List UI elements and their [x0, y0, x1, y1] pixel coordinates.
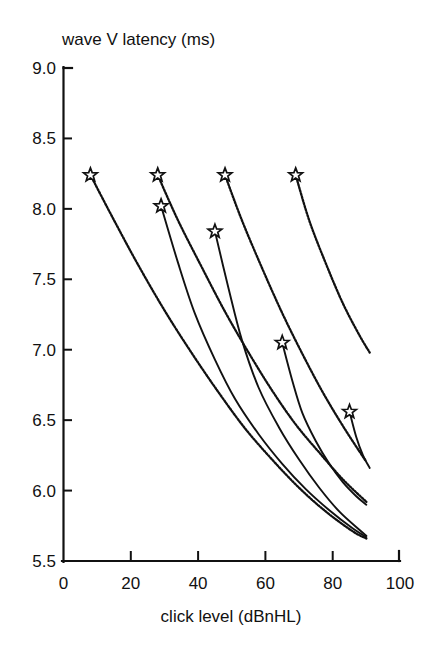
axis-frame: [62, 67, 400, 562]
y-tick-label: 7.0: [32, 341, 56, 360]
y-tick-label: 6.5: [32, 411, 56, 430]
x-tick-label: 0: [59, 574, 68, 593]
x-axis-title: click level (dBnHL): [161, 607, 302, 626]
y-tick-label: 8.0: [32, 200, 56, 219]
latency-curve: [90, 175, 366, 538]
x-tick-label: 20: [121, 574, 140, 593]
x-tick-label: 40: [189, 574, 208, 593]
threshold-star-marker: [289, 168, 303, 181]
curve-group: [90, 175, 369, 538]
threshold-star-marker: [343, 404, 357, 417]
threshold-star-marker: [151, 168, 165, 181]
threshold-star-marker: [218, 168, 232, 181]
y-axis-title: wave V latency (ms): [61, 30, 215, 49]
threshold-star-marker: [208, 224, 222, 237]
threshold-star-marker: [275, 335, 289, 348]
y-tick-group: 9.08.58.07.57.06.56.05.5: [32, 59, 72, 571]
x-tick-label: 80: [323, 574, 342, 593]
y-tick-label: 7.5: [32, 270, 56, 289]
x-tick-label: 100: [386, 574, 414, 593]
y-tick-label: 9.0: [32, 59, 56, 78]
threshold-star-marker: [84, 168, 98, 181]
latency-intensity-chart: wave V latency (ms) 9.08.58.07.57.06.56.…: [0, 0, 443, 657]
chart-svg: wave V latency (ms) 9.08.58.07.57.06.56.…: [0, 0, 443, 657]
latency-curve: [158, 175, 367, 502]
latency-curve: [215, 231, 366, 535]
x-tick-label: 60: [256, 574, 275, 593]
y-tick-label: 6.0: [32, 482, 56, 501]
x-tick-group: 020406080100: [59, 551, 414, 593]
latency-curve: [296, 175, 370, 352]
y-tick-label: 5.5: [32, 552, 56, 571]
threshold-star-marker: [154, 199, 168, 212]
y-tick-label: 8.5: [32, 129, 56, 148]
latency-curve: [161, 206, 366, 537]
